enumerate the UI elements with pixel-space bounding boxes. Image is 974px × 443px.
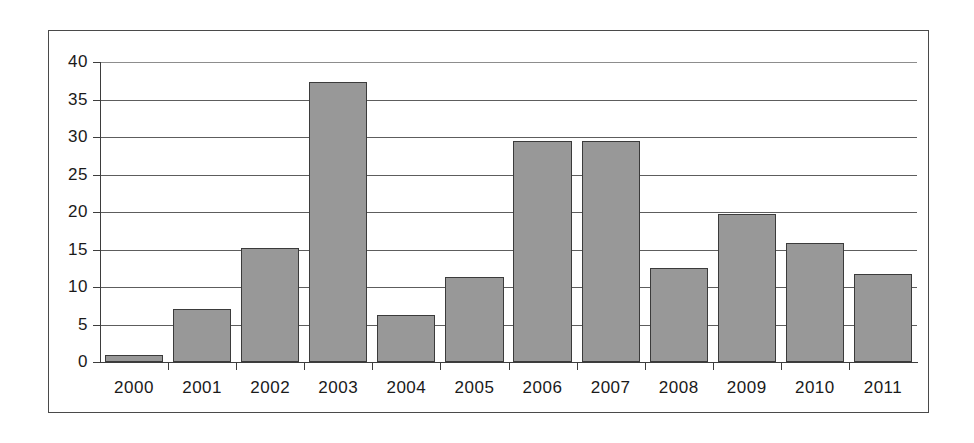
- gridline: [100, 175, 917, 176]
- x-axis-label-2002: 2002: [250, 378, 290, 398]
- y-axis-tick-label: 0: [78, 352, 88, 372]
- y-axis-tick-label: 10: [68, 277, 88, 297]
- y-axis-tick: [93, 287, 100, 288]
- x-axis-tick: [645, 362, 646, 370]
- x-axis-label-2006: 2006: [523, 378, 563, 398]
- y-axis-tick: [93, 137, 100, 138]
- gridline: [100, 137, 917, 138]
- gridline: [100, 100, 917, 101]
- y-axis-tick-label: 5: [78, 315, 88, 335]
- x-axis-tick: [713, 362, 714, 370]
- bar-2005: [445, 277, 503, 362]
- x-axis-tick: [372, 362, 373, 370]
- x-axis-label-2004: 2004: [386, 378, 426, 398]
- y-axis-tick: [93, 175, 100, 176]
- x-axis-label-2001: 2001: [182, 378, 222, 398]
- x-axis-label-2011: 2011: [864, 378, 903, 398]
- gridline: [100, 212, 917, 213]
- y-axis-tick: [93, 100, 100, 101]
- x-axis-tick: [849, 362, 850, 370]
- y-axis-tick: [93, 250, 100, 251]
- bar-2001: [173, 309, 231, 362]
- y-axis-tick-label: 35: [68, 90, 88, 110]
- y-axis-tick: [93, 362, 100, 363]
- bar-2009: [718, 214, 776, 362]
- x-axis-tick: [168, 362, 169, 370]
- x-axis-label-2003: 2003: [318, 378, 358, 398]
- x-axis-tick: [577, 362, 578, 370]
- bar-2006: [513, 141, 571, 362]
- bar-2003: [309, 82, 367, 362]
- bar-2007: [582, 141, 640, 362]
- y-axis-tick-label: 15: [68, 240, 88, 260]
- y-axis-tick: [93, 62, 100, 63]
- y-axis-tick: [93, 212, 100, 213]
- x-axis-tick: [781, 362, 782, 370]
- bar-chart-figure: 0510152025303540 20002001200220032004200…: [0, 0, 974, 443]
- x-axis-label-2005: 2005: [455, 378, 495, 398]
- bar-2002: [241, 248, 299, 362]
- x-axis-tick: [509, 362, 510, 370]
- y-axis-tick-label: 40: [68, 52, 88, 72]
- bar-2000: [105, 355, 163, 363]
- x-axis-label-2008: 2008: [659, 378, 699, 398]
- x-axis-label-2007: 2007: [591, 378, 631, 398]
- y-axis-tick-label: 30: [68, 127, 88, 147]
- bar-2010: [786, 243, 844, 362]
- x-axis-label-2000: 2000: [114, 378, 154, 398]
- plot-area: [100, 62, 917, 362]
- bar-2008: [650, 268, 708, 363]
- y-axis-line: [100, 62, 101, 363]
- y-axis-tick-label: 25: [68, 165, 88, 185]
- x-axis-tick: [440, 362, 441, 370]
- x-axis-label-2010: 2010: [795, 378, 835, 398]
- y-axis-tick-label: 20: [68, 202, 88, 222]
- x-axis-tick: [304, 362, 305, 370]
- x-axis-label-2009: 2009: [727, 378, 767, 398]
- x-axis-tick: [236, 362, 237, 370]
- bar-2004: [377, 315, 435, 362]
- gridline: [100, 62, 917, 63]
- y-axis-tick: [93, 325, 100, 326]
- bar-2011: [854, 274, 912, 363]
